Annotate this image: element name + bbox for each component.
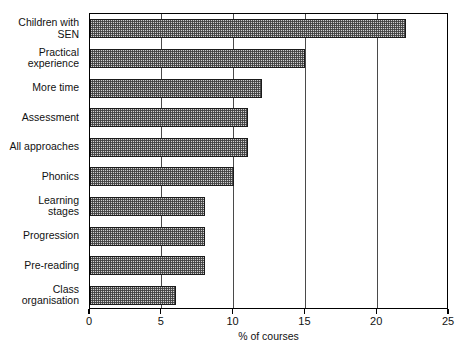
y-axis-label-line: All approaches <box>0 141 79 153</box>
bar <box>90 227 205 246</box>
x-axis-title: % of courses <box>89 330 448 342</box>
x-tick-label-20: 20 <box>356 315 396 327</box>
x-tick-0 <box>88 309 89 314</box>
y-axis-label-line: stages <box>0 206 79 218</box>
x-tick-25 <box>447 309 448 314</box>
y-axis-label-line: organisation <box>0 295 79 307</box>
y-axis-label: More time <box>0 82 79 94</box>
chart-title-cropped <box>0 0 476 3</box>
x-tick-label-15: 15 <box>284 315 324 327</box>
bar <box>90 286 176 305</box>
plot-area <box>89 13 448 309</box>
bar <box>90 19 406 38</box>
bar <box>90 49 305 68</box>
y-axis-label-line: Assessment <box>0 112 79 124</box>
y-axis-label-line: Pre-reading <box>0 260 79 272</box>
bar <box>90 197 205 216</box>
y-axis-label-line: Progression <box>0 230 79 242</box>
y-axis-label-line: More time <box>0 82 79 94</box>
x-axis: 0510152025 <box>89 309 448 331</box>
y-axis-label: Practicalexperience <box>0 47 79 70</box>
y-axis-label-line: experience <box>0 58 79 70</box>
y-axis-label: Assessment <box>0 112 79 124</box>
x-tick-label-25: 25 <box>428 315 468 327</box>
plot-inner <box>90 14 447 308</box>
gridline-20 <box>377 14 378 308</box>
y-axis-label: Pre-reading <box>0 260 79 272</box>
y-axis-label: All approaches <box>0 141 79 153</box>
bar <box>90 108 248 127</box>
y-axis-label-line: SEN <box>0 29 79 41</box>
y-axis-label: Children withSEN <box>0 17 79 40</box>
y-axis-label: Phonics <box>0 171 79 183</box>
y-axis-label: Classorganisation <box>0 284 79 307</box>
bar <box>90 138 248 157</box>
y-axis-label: Learningstages <box>0 195 79 218</box>
y-axis-label-line: Phonics <box>0 171 79 183</box>
bar-chart-figure: Children withSENPracticalexperienceMore … <box>0 0 476 351</box>
y-axis-category-labels: Children withSENPracticalexperienceMore … <box>0 13 84 309</box>
x-tick-20 <box>376 309 377 314</box>
x-tick-10 <box>232 309 233 314</box>
x-tick-label-10: 10 <box>213 315 253 327</box>
bar <box>90 256 205 275</box>
bar <box>90 79 262 98</box>
x-tick-5 <box>160 309 161 314</box>
bar <box>90 167 234 186</box>
x-tick-label-5: 5 <box>141 315 181 327</box>
x-tick-label-0: 0 <box>69 315 109 327</box>
x-tick-15 <box>304 309 305 314</box>
y-axis-label: Progression <box>0 230 79 242</box>
